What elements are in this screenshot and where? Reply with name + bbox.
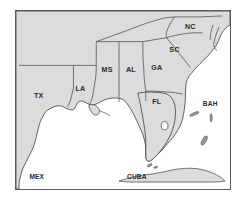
bahamas-island-2	[210, 114, 212, 122]
state-label-nc: NC	[185, 23, 196, 31]
lake-okeechobee	[161, 122, 168, 130]
state-label-fl: FL	[152, 98, 162, 106]
map-canvas: TX LA MS AL GA FL SC NC MEX CUBA BAH	[16, 11, 230, 189]
country-label-bah: BAH	[203, 100, 218, 107]
state-label-ga: GA	[151, 64, 162, 72]
country-label-cuba: CUBA	[127, 173, 147, 180]
map-frame-border: TX LA MS AL GA FL SC NC MEX CUBA BAH	[15, 10, 231, 190]
map-figure: TX LA MS AL GA FL SC NC MEX CUBA BAH	[0, 0, 246, 201]
state-label-ms: MS	[102, 66, 113, 74]
state-label-la: LA	[75, 85, 85, 93]
state-label-sc: SC	[169, 46, 179, 54]
state-label-al: AL	[126, 66, 136, 74]
state-label-tx: TX	[34, 92, 44, 100]
country-label-mex: MEX	[29, 173, 44, 180]
